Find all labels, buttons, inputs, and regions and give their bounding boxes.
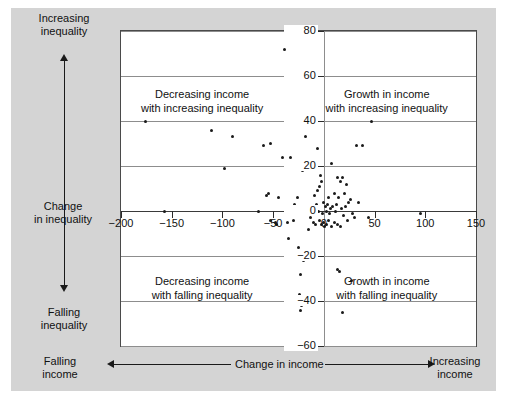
x-axis-title: Change in income (235, 358, 324, 370)
quadrant-label-line1: Growth in income (344, 88, 430, 100)
scatter-point (330, 162, 333, 165)
y-axis-bottom-label-line2: inequality (41, 319, 87, 331)
scatter-point (316, 189, 319, 192)
y-tick-label-80: 80 (284, 25, 318, 36)
scatter-point (257, 210, 260, 213)
scatter-point (337, 196, 340, 199)
scatter-point (299, 273, 302, 276)
y-tick-60 (317, 76, 324, 77)
scatter-point (318, 185, 321, 188)
scatter-point (313, 194, 316, 197)
y-tick-label-40: 40 (284, 115, 318, 126)
x-axis-left-label-line1: Falling (44, 355, 76, 367)
scatter-point (331, 205, 334, 208)
scatter-point (338, 270, 341, 273)
scatter-point (231, 135, 234, 138)
plot-area[interactable]: Decreasing incomewith increasing inequal… (120, 30, 477, 347)
arrow-down-icon (60, 285, 68, 292)
y-tick--60 (317, 346, 324, 347)
x-tick-label--50: −50 (251, 218, 295, 229)
scatter-point (269, 142, 272, 145)
scatter-point (336, 176, 339, 179)
quadrant-label-bottom-left: Decreasing incomewith falling inequality (122, 274, 282, 302)
scatter-point (281, 156, 284, 159)
x-tick-label-50: 50 (353, 218, 397, 229)
scatter-point (296, 196, 299, 199)
scatter-point (344, 205, 347, 208)
scatter-point (419, 212, 422, 215)
y-tick-20 (317, 166, 324, 167)
x-axis-left-label: Falling income (21, 355, 99, 381)
scatter-point (342, 214, 345, 217)
x-tick-label--150: −150 (150, 218, 194, 229)
x-axis-right-label-line1: Increasing (430, 355, 481, 367)
x-tick-label--200: −200 (99, 218, 143, 229)
y-tick-label--40: −40 (284, 295, 318, 306)
y-axis-bottom-label: Falling inequality (23, 306, 105, 332)
scatter-point (333, 192, 336, 195)
scatter-point (334, 210, 337, 213)
y-axis-title-line1: Change (44, 200, 83, 212)
y-axis-top-label: Increasing inequality (23, 12, 105, 38)
scatter-point (262, 144, 265, 147)
scatter-point (340, 207, 343, 210)
scatter-point (304, 135, 307, 138)
scatter-point (355, 144, 358, 147)
scatter-point (357, 201, 360, 204)
quadrant-label-top-left: Decreasing incomewith increasing inequal… (122, 87, 282, 115)
scatter-point (341, 176, 344, 179)
scatter-point (287, 237, 290, 240)
scatter-point (283, 48, 286, 51)
scatter-point (326, 203, 329, 206)
quadrant-label-line2: with falling inequality (152, 289, 253, 301)
scatter-point (327, 196, 330, 199)
quadrant-label-bottom-right: Growth in incomewith falling inequality (307, 274, 467, 302)
scatter-point (267, 192, 270, 195)
y-tick--20 (317, 256, 324, 257)
quadrant-label-line2: with falling inequality (336, 289, 437, 301)
y-tick-label-0: 0 (284, 205, 318, 216)
quadrant-label-line1: Decreasing income (155, 88, 249, 100)
quadrant-label-line2: with increasing inequality (141, 102, 263, 114)
x-tick-label-100: 100 (403, 218, 447, 229)
y-tick-40 (317, 121, 324, 122)
y-tick-label--20: −20 (284, 250, 318, 261)
scatter-point (346, 219, 349, 222)
scatter-point (144, 120, 147, 123)
chart-board: Increasing inequality Change in inequali… (11, 8, 496, 391)
scatter-point (361, 144, 364, 147)
y-axis-arrow-line (64, 60, 65, 286)
x-tick-label-150: 150 (454, 218, 498, 229)
y-axis-top-label-line1: Increasing (39, 12, 90, 24)
scatter-point (210, 129, 213, 132)
scatter-point (163, 210, 166, 213)
x-axis-right-label-line2: income (437, 368, 472, 380)
y-axis-top-label-line2: inequality (41, 25, 87, 37)
scatter-point (328, 212, 331, 215)
scatter-point (322, 201, 325, 204)
y-tick-label-20: 20 (284, 160, 318, 171)
x-tick-label--100: −100 (200, 218, 244, 229)
scatter-point (370, 120, 373, 123)
quadrant-label-top-right: Growth in incomewith increasing inequali… (307, 87, 467, 115)
scatter-point (343, 192, 346, 195)
scatter-point (299, 309, 302, 312)
y-tick-label--60: −60 (284, 340, 318, 351)
x-axis-arrow-left-line (113, 364, 231, 365)
x-axis-left-label-line2: income (42, 368, 77, 380)
quadrant-label-line1: Decreasing income (155, 275, 249, 287)
scatter-point (335, 203, 338, 206)
y-tick-label-60: 60 (284, 70, 318, 81)
scatter-point (345, 183, 348, 186)
figure-canvas: Increasing inequality Change in inequali… (0, 0, 507, 404)
scatter-point (341, 311, 344, 314)
scatter-point (277, 196, 280, 199)
scatter-point (319, 174, 322, 177)
quadrant-label-line1: Growth in income (344, 275, 430, 287)
y-tick-80 (317, 31, 324, 32)
scatter-point (339, 180, 342, 183)
scatter-point (347, 201, 350, 204)
y-axis-bottom-label-line1: Falling (48, 306, 80, 318)
scatter-point (289, 156, 292, 159)
scatter-point (316, 147, 319, 150)
